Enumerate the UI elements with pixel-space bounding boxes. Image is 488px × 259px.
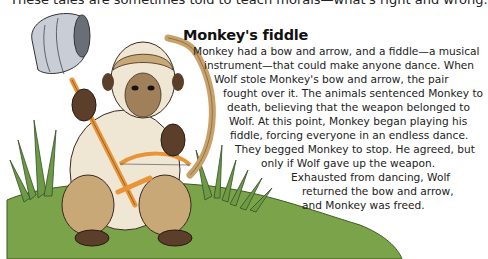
story-line: Wolf. At this point, Monkey began playin… bbox=[229, 114, 467, 128]
story-line: and Monkey was freed. bbox=[302, 198, 425, 212]
monkey-foot-right bbox=[158, 230, 192, 246]
story-line: Exhausted from dancing, Wolf bbox=[291, 170, 450, 184]
monkey-face bbox=[125, 73, 161, 117]
story-line: Monkey had a bow and arrow, and a fiddle… bbox=[193, 44, 480, 58]
fiddle-bucket bbox=[32, 13, 90, 74]
monkey-hand-left bbox=[72, 89, 96, 121]
story-line: They begged Monkey to stop. He agreed, b… bbox=[235, 142, 475, 156]
story-line: fought over it. The animals sentenced Mo… bbox=[223, 86, 483, 100]
story-line: fiddle, forcing everyone in an endless d… bbox=[230, 128, 468, 142]
monkey-foot-left bbox=[75, 230, 109, 246]
story-line: returned the bow and arrow, bbox=[302, 184, 454, 198]
story-title: Monkey's fiddle bbox=[183, 27, 308, 43]
story-line: Wolf stole Monkey's bow and arrow, the p… bbox=[214, 72, 449, 86]
story-line: death, believing that the weapon belonge… bbox=[227, 100, 470, 114]
grass-tuft-left bbox=[10, 120, 56, 202]
monkey-hand-right bbox=[161, 124, 185, 156]
story-line: instrument—that could make anyone dance.… bbox=[204, 58, 474, 72]
story-line: only if Wolf gave up the weapon. bbox=[261, 156, 435, 170]
